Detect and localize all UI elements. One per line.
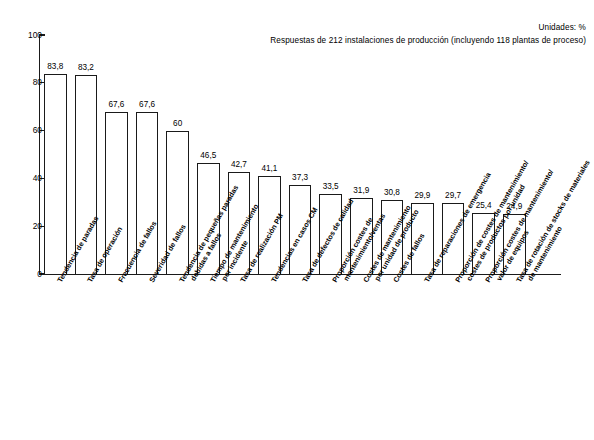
bar-value-label: 46,5 bbox=[191, 152, 226, 160]
bar-value-label: 31,9 bbox=[344, 187, 379, 195]
y-axis-tick-label: 20 bbox=[14, 222, 42, 230]
bar-value-label: 33,5 bbox=[313, 183, 348, 191]
bar-value-label: 41,1 bbox=[252, 165, 287, 173]
plot-area: 020406080100 83,883,267,667,66046,542,74… bbox=[0, 0, 594, 440]
bar-value-label: 83,2 bbox=[69, 64, 104, 72]
bar-value-label: 30,8 bbox=[375, 189, 410, 197]
bar-value-label: 29,7 bbox=[436, 192, 471, 200]
bar-value-label: 83,8 bbox=[38, 63, 73, 71]
bar-value-label: 67,6 bbox=[99, 101, 134, 109]
y-axis-tick-label: 60 bbox=[14, 126, 42, 134]
chart-page: Unidades: % Respuestas de 212 instalacio… bbox=[0, 0, 594, 440]
bar-value-label: 67,6 bbox=[130, 101, 165, 109]
bar-value-label: 60 bbox=[160, 120, 195, 128]
y-axis-tick-label: 0 bbox=[14, 270, 42, 278]
y-axis-tick-label: 100 bbox=[14, 31, 42, 39]
bar-value-label: 29,9 bbox=[405, 192, 440, 200]
bar bbox=[44, 74, 67, 274]
bar-value-label: 42,7 bbox=[222, 161, 257, 169]
y-axis-tick-label: 40 bbox=[14, 174, 42, 182]
bar-value-label: 37,3 bbox=[283, 174, 318, 182]
y-axis-line bbox=[39, 35, 40, 275]
y-axis-tick-label: 80 bbox=[14, 78, 42, 86]
